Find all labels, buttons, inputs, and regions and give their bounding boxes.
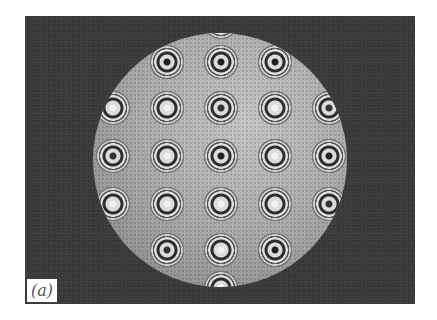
interference-ring-pattern — [256, 137, 294, 175]
interference-ring-pattern — [256, 231, 294, 269]
interference-ring-pattern — [148, 137, 186, 175]
interference-ring-pattern — [202, 33, 240, 41]
interference-ring-pattern — [202, 269, 240, 287]
interference-ring-pattern — [202, 137, 240, 175]
interference-ring-pattern — [202, 231, 240, 269]
interference-ring-pattern — [148, 185, 186, 223]
interference-ring-pattern — [148, 89, 186, 127]
interference-ring-pattern — [256, 89, 294, 127]
interference-ring-pattern — [94, 89, 132, 127]
circular-aperture — [93, 33, 347, 287]
interference-ring-pattern — [310, 185, 347, 223]
interference-ring-pattern — [256, 43, 294, 81]
interference-ring-pattern — [94, 185, 132, 223]
interference-ring-pattern — [310, 89, 347, 127]
interference-ring-pattern — [202, 43, 240, 81]
interference-ring-pattern — [202, 89, 240, 127]
interference-ring-pattern — [94, 137, 132, 175]
interference-ring-pattern — [148, 231, 186, 269]
interference-ring-pattern — [148, 43, 186, 81]
interference-ring-pattern — [256, 185, 294, 223]
interference-image-panel — [25, 16, 415, 304]
interference-ring-pattern — [202, 185, 240, 223]
panel-label: (a) — [27, 279, 57, 302]
interference-ring-pattern — [310, 137, 347, 175]
